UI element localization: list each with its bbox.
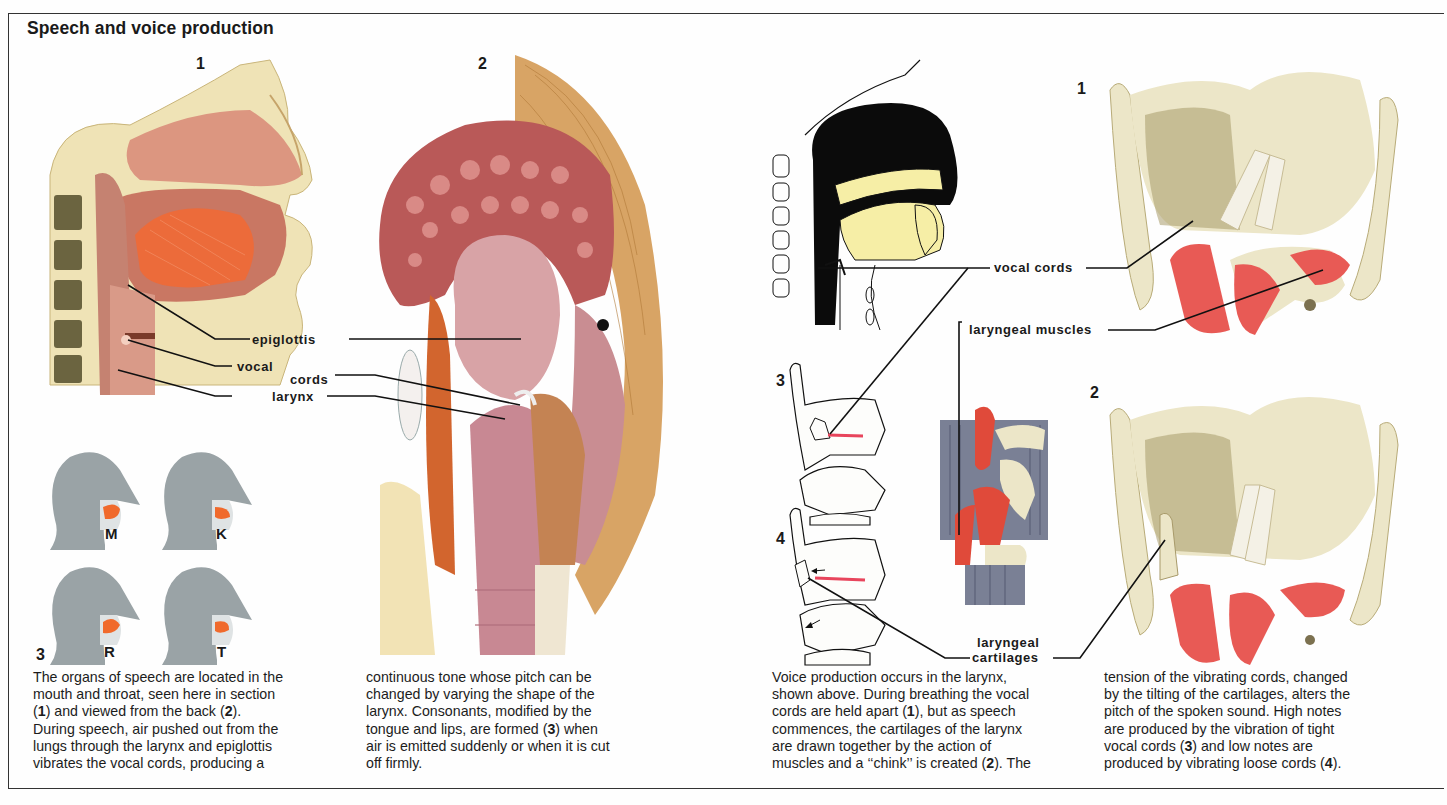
caption-column-2: continuous tone whose pitch can be chang… <box>366 669 706 772</box>
label-laryngeal-muscles: laryngeal muscles <box>969 322 1092 337</box>
label-laryngeal: laryngeal <box>977 635 1040 650</box>
label-vocal-cords: vocal cords <box>994 260 1073 275</box>
caption-column-4: tension of the vibrating cords, changed … <box>1104 669 1439 772</box>
label-cartilages: cartilages <box>972 650 1039 665</box>
caption-column-3: Voice production occurs in the larynx, s… <box>772 669 1102 772</box>
caption-column-1: The organs of speech are located in the … <box>33 669 363 772</box>
